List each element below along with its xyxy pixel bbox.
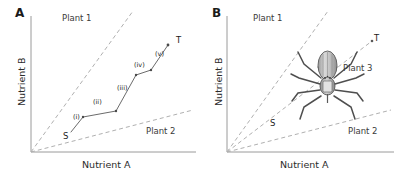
panel-a-rail-label-plant-2: Plant 2 (146, 126, 176, 136)
trajectory-vertex (135, 74, 137, 76)
panel-a-plot (0, 0, 203, 176)
panel-a-point-label-s: S (63, 131, 68, 141)
trajectory-vertex (150, 69, 152, 71)
panel-a: A Plant 1 Plant 2 S T (i) (ii) (iii) (0, 0, 203, 176)
panel-a-segment-label-iv: (iv) (134, 61, 145, 69)
panel-a-rail-label-plant-1: Plant 1 (62, 13, 92, 23)
panel-a-x-axis-label: Nutrient A (82, 159, 131, 170)
panel-a-segment-label-iii: (iii) (117, 84, 128, 92)
panel-b-point-label-s: S (270, 118, 275, 128)
panel-a-y-axis-label: Nutrient B (16, 57, 27, 106)
spider-icon (290, 47, 365, 125)
panel-a-segment-label-ii: (ii) (93, 98, 102, 106)
panel-a-segment-label-i: (i) (73, 113, 80, 121)
panel-b-y-axis-label: Nutrient B (213, 57, 224, 106)
panel-b-rail-label-plant-1: Plant 1 (253, 13, 283, 23)
panel-a-segment-label-v: (v) (155, 50, 164, 58)
panel-b-rail-label-plant-3: Plant 3 (343, 63, 373, 73)
panel-b: B (202, 0, 405, 176)
trajectory-vertex (115, 110, 117, 112)
panel-a-point-label-t: T (176, 35, 181, 45)
rail-plant-1 (31, 11, 133, 152)
trajectory-vertex (82, 116, 84, 118)
panel-b-point-label-t: T (374, 33, 379, 43)
trajectory-endpoint-t (167, 44, 170, 47)
figure-container: A Plant 1 Plant 2 S T (i) (ii) (iii) (0, 0, 405, 176)
panel-b-rail-label-plant-2: Plant 2 (348, 126, 378, 136)
panel-b-x-axis-label: Nutrient A (280, 159, 329, 170)
panel-b-endpoint-t (371, 40, 374, 43)
